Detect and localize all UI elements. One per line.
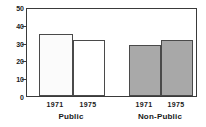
y-axis: 50 40 30 20 10 0	[0, 0, 24, 127]
y-tick-label-0: 0	[4, 94, 24, 101]
group-label-nonpublic: Non-Public	[126, 112, 194, 121]
x-tick-label-public-1971: 1971	[38, 101, 72, 109]
y-tick-label-40: 40	[4, 22, 24, 29]
x-tick-label-nonpublic-1975: 1975	[160, 101, 192, 109]
bar-nonpublic-1971	[129, 45, 161, 96]
y-tick-label-50: 50	[4, 5, 24, 12]
bar-public-1971	[39, 34, 73, 96]
y-tick-label-10: 10	[4, 76, 24, 83]
bar-public-1975	[73, 40, 105, 96]
y-tick-label-20: 20	[4, 58, 24, 65]
bar-nonpublic-1975	[161, 40, 193, 96]
plot-area	[26, 8, 197, 97]
bar-chart: 50 40 30 20 10 0 1971 1975 1971 1975 Pub…	[0, 0, 206, 127]
group-label-public: Public	[38, 112, 104, 121]
y-tick-label-30: 30	[4, 40, 24, 47]
x-tick-label-nonpublic-1971: 1971	[128, 101, 160, 109]
x-tick-label-public-1975: 1975	[72, 101, 104, 109]
